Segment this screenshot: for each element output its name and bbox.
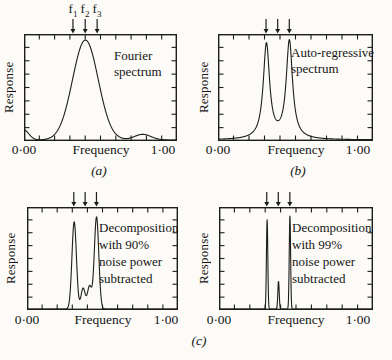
x-tick-min: 0·00 xyxy=(15,312,40,328)
x-tick-min: 0·00 xyxy=(206,142,231,158)
x-axis-label: Frequency xyxy=(75,312,132,328)
x-tick-min: 0·00 xyxy=(12,142,37,158)
panel-caption-a: (a) xyxy=(91,163,107,179)
arrow-head xyxy=(71,202,76,207)
x-tick-max: 1·00 xyxy=(346,142,371,158)
x-axis-label: Frequency xyxy=(268,312,325,328)
annotation-autoregressive-spectrum: Auto-regressive spectrum xyxy=(291,45,374,77)
arrow-head xyxy=(95,29,100,34)
arrow-head xyxy=(94,202,99,207)
arrow-head xyxy=(287,29,292,34)
panel-fourier-spectrum: f1 f2 f3 Response Fourier spectrum 0·00 … xyxy=(0,0,196,180)
annotation-decomposition-99: Decomposition with 99% noise power subtr… xyxy=(292,219,371,287)
arrow-head xyxy=(264,29,269,34)
x-axis-label: Frequency xyxy=(73,142,130,158)
annotation-decomposition-90: Decomposition with 90% noise power subtr… xyxy=(99,219,178,287)
x-tick-max: 1·00 xyxy=(151,142,176,158)
figure-spectral-analysis: f1 f2 f3 Response Fourier spectrum 0·00 … xyxy=(0,0,392,360)
arrow-head xyxy=(264,202,269,207)
panel-caption-c: (c) xyxy=(192,333,207,349)
peak-arrows xyxy=(71,192,99,207)
y-axis-label: Response xyxy=(196,34,211,141)
peak-arrows xyxy=(264,192,292,207)
arrow-head xyxy=(70,29,75,34)
arrow-head xyxy=(83,202,88,207)
x-tick-min: 0·00 xyxy=(207,312,232,328)
y-axis-label: Response xyxy=(1,34,16,141)
peak-arrows xyxy=(70,19,99,34)
panel-decomposition-90: Response Decomposition with 90% noise po… xyxy=(0,180,196,360)
panel-autoregressive-spectrum: Response Auto-regressive spectrum 0·00 F… xyxy=(196,0,392,180)
panel-caption-b: (b) xyxy=(290,163,306,179)
y-axis-label: Response xyxy=(3,207,18,310)
arrow-head xyxy=(276,202,281,207)
arrow-head xyxy=(83,29,88,34)
y-axis-label: Response xyxy=(196,207,211,310)
annotation-fourier-spectrum: Fourier spectrum xyxy=(114,48,162,80)
plot-area-autoregressive xyxy=(218,14,373,141)
panel-decomposition-99: Response Decomposition with 99% noise po… xyxy=(196,180,392,360)
peak-arrows xyxy=(264,19,292,34)
x-axis-label: Frequency xyxy=(268,142,325,158)
x-tick-max: 1·00 xyxy=(346,312,371,328)
arrow-head xyxy=(287,202,292,207)
arrow-head xyxy=(275,29,280,34)
x-tick-max: 1·00 xyxy=(154,312,179,328)
